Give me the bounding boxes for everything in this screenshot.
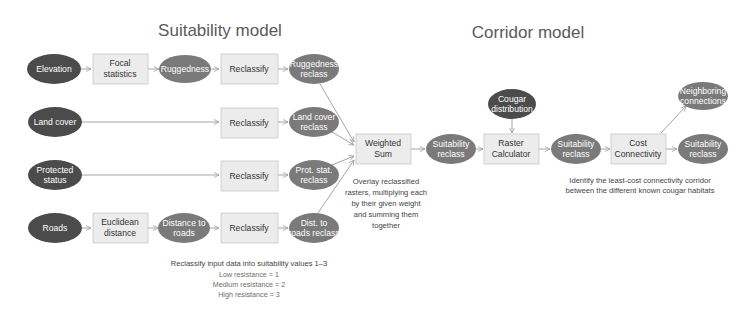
svg-text:between the different known co: between the different known cougar habit… xyxy=(566,186,715,195)
svg-text:connections: connections xyxy=(680,96,726,106)
weighted-sum-note: Overlay reclassified rasters, multiplyin… xyxy=(345,177,427,230)
node-focal-statistics: Focal statistics xyxy=(93,54,148,84)
svg-text:Land cover: Land cover xyxy=(34,117,77,127)
svg-text:reclass: reclass xyxy=(437,149,464,159)
node-cost-connectivity: Cost Connectivity xyxy=(611,134,666,164)
svg-text:High resistance = 3: High resistance = 3 xyxy=(218,290,280,299)
svg-text:Land cover: Land cover xyxy=(293,112,336,122)
svg-text:Cost: Cost xyxy=(629,138,647,148)
node-reclassify-2: Reclassify xyxy=(221,108,278,138)
svg-text:and summing them: and summing them xyxy=(354,210,419,219)
node-land-cover: Land cover xyxy=(28,107,82,137)
node-distance-to-roads: Distance to roads xyxy=(158,213,210,243)
svg-text:roads: roads xyxy=(173,228,195,238)
node-reclassify-1: Reclassify xyxy=(221,54,278,84)
corridor-note: Identify the least-cost connectivity cor… xyxy=(566,176,715,195)
svg-text:Identify the least-cost connec: Identify the least-cost connectivity cor… xyxy=(569,176,711,185)
svg-text:Dist. to: Dist. to xyxy=(301,218,328,228)
svg-text:Weighted: Weighted xyxy=(365,138,401,148)
svg-text:Raster: Raster xyxy=(498,138,523,148)
svg-text:together: together xyxy=(372,221,400,230)
node-euclidean-distance: Euclidean distance xyxy=(93,213,148,243)
edge-cost-neighboring xyxy=(661,106,686,133)
svg-text:Euclidean: Euclidean xyxy=(101,217,139,227)
node-cougar-distribution: Cougar distribution xyxy=(488,89,536,119)
node-suitability-reclass-2: Suitability reclass xyxy=(551,134,601,164)
reclassify-note: Reclassify input data into suitability v… xyxy=(171,259,328,299)
svg-text:reclass: reclass xyxy=(300,69,327,79)
node-roads: Roads xyxy=(28,213,82,243)
svg-text:roads reclass: roads reclass xyxy=(288,228,339,238)
svg-text:Connectivity: Connectivity xyxy=(615,149,663,159)
svg-text:distance: distance xyxy=(104,228,136,238)
svg-text:reclass: reclass xyxy=(300,122,327,132)
node-weighted-sum: Weighted Sum xyxy=(356,134,411,164)
suitability-model-title: Suitability model xyxy=(158,21,282,40)
svg-text:Prot. stat.: Prot. stat. xyxy=(296,165,333,175)
svg-text:Suitability: Suitability xyxy=(433,139,470,149)
svg-text:Focal: Focal xyxy=(109,58,130,68)
svg-text:Suitability: Suitability xyxy=(685,139,722,149)
svg-text:Cougar: Cougar xyxy=(498,94,526,104)
node-neighboring-connections: Neighboring connections xyxy=(678,82,728,110)
svg-text:Reclassify: Reclassify xyxy=(229,171,269,181)
node-prot-stat-reclass: Prot. stat. reclass xyxy=(289,160,339,190)
svg-text:by their given weight: by their given weight xyxy=(351,199,421,208)
svg-text:status: status xyxy=(44,175,67,185)
svg-text:Neighboring: Neighboring xyxy=(680,86,727,96)
svg-text:Reclassify: Reclassify xyxy=(229,118,269,128)
svg-text:Sum: Sum xyxy=(374,149,392,159)
node-dist-roads-reclass: Dist. to roads reclass xyxy=(288,213,339,243)
svg-text:Reclassify: Reclassify xyxy=(229,223,269,233)
svg-text:Roads: Roads xyxy=(43,223,68,233)
edge-prot-reclass-weighted-sum xyxy=(332,156,354,165)
svg-text:Calculator: Calculator xyxy=(492,149,531,159)
corridor-model-title: Corridor model xyxy=(472,23,584,42)
node-elevation: Elevation xyxy=(27,54,81,84)
svg-text:reclass: reclass xyxy=(689,149,716,159)
svg-text:rasters, multiplying each: rasters, multiplying each xyxy=(345,188,427,197)
svg-text:Distance to: Distance to xyxy=(163,218,206,228)
svg-text:Elevation: Elevation xyxy=(36,64,72,74)
svg-text:statistics: statistics xyxy=(104,69,137,79)
svg-text:Suitability: Suitability xyxy=(558,139,595,149)
svg-text:distribution: distribution xyxy=(491,104,533,114)
svg-text:Protected: Protected xyxy=(37,165,74,175)
model-diagram: Suitability model Corridor model xyxy=(0,0,756,315)
svg-text:Ruggedness: Ruggedness xyxy=(161,64,209,74)
svg-text:Overlay reclassified: Overlay reclassified xyxy=(353,177,419,186)
svg-text:Medium resistance = 2: Medium resistance = 2 xyxy=(213,280,286,289)
node-protected-status: Protected status xyxy=(28,160,82,190)
node-ruggedness: Ruggedness xyxy=(159,55,211,83)
svg-text:Reclassify input data into sui: Reclassify input data into suitability v… xyxy=(171,259,328,268)
node-suitability-reclass-1: Suitability reclass xyxy=(426,134,476,164)
node-raster-calculator: Raster Calculator xyxy=(484,134,539,164)
svg-text:reclass: reclass xyxy=(300,175,327,185)
svg-text:Ruggedness: Ruggedness xyxy=(290,59,338,69)
svg-text:Low resistance = 1: Low resistance = 1 xyxy=(219,270,279,279)
node-suitability-reclass-3: Suitability reclass xyxy=(678,134,728,164)
svg-text:reclass: reclass xyxy=(562,149,589,159)
node-land-cover-reclass: Land cover reclass xyxy=(289,107,339,137)
node-reclassify-4: Reclassify xyxy=(221,213,278,243)
svg-text:Reclassify: Reclassify xyxy=(229,64,269,74)
node-ruggedness-reclass: Ruggedness reclass xyxy=(289,54,339,84)
edge-landcover-reclass-weighted-sum xyxy=(332,132,354,145)
node-reclassify-3: Reclassify xyxy=(221,161,278,191)
